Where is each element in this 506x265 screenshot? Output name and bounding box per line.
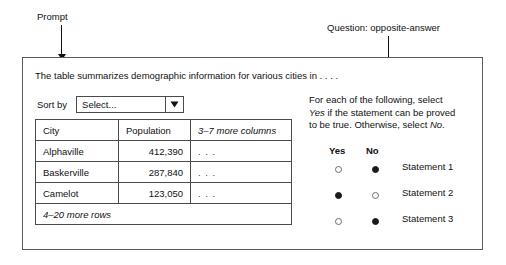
cell-population: 412,390 [119,141,191,162]
instructions-line-3: to be true. Otherwise, select [309,119,430,130]
radio-no-statement-1[interactable] [372,166,379,173]
table-header-row: City Population 3–7 more columns [36,120,292,141]
response-column-headers: Yes No [309,145,475,159]
question-frame: The table summarizes demographic informa… [22,57,483,250]
statement-row: Statement 1 [309,159,475,185]
radio-no-statement-2[interactable] [372,192,379,199]
column-header-no: No [366,145,379,156]
instructions-line-2: if the statement can be proved [325,107,455,118]
arrow-shaft [61,25,62,55]
statement-label: Statement 3 [402,213,453,224]
sort-by-selected-value: Select... [77,97,165,112]
cell-city: Camelot [36,183,119,204]
table-more-rows-note: 4–20 more rows [36,204,292,225]
cell-city: Alphaville [36,141,119,162]
instructions-yes-emphasis: Yes [309,107,325,118]
cell-city: Baskerville [36,162,119,183]
statement-row: Statement 2 [309,185,475,211]
radio-no-statement-3[interactable] [372,218,379,225]
table-pane: Sort by Select... City Population 3–7 mo… [35,96,307,225]
column-header-more-columns: 3–7 more columns [191,120,292,141]
sort-by-label: Sort by [37,99,67,110]
sort-by-select[interactable]: Select... [76,96,184,113]
response-instructions: For each of the following, select Yes if… [309,94,475,132]
annotation-prompt-label: Prompt [37,11,68,23]
instructions-no-emphasis: No [430,119,442,130]
sort-by-row: Sort by Select... [35,96,307,113]
instructions-line-3-end: . [442,119,445,130]
chevron-down-icon[interactable] [165,97,183,112]
statement-label: Statement 1 [402,161,453,172]
statement-label: Statement 2 [402,187,453,198]
column-header-city[interactable]: City [36,120,119,141]
demographics-table: City Population 3–7 more columns Alphavi… [35,119,292,225]
table-row: Alphaville 412,390 . . . [36,141,292,162]
radio-yes-statement-1[interactable] [335,166,342,173]
table-footer-row: 4–20 more rows [36,204,292,225]
instructions-line-1: For each of the following, select [309,94,443,105]
table-row: Camelot 123,050 . . . [36,183,292,204]
cell-more: . . . [191,183,292,204]
table-row: Baskerville 287,840 . . . [36,162,292,183]
cell-more: . . . [191,162,292,183]
cell-population: 123,050 [119,183,191,204]
cell-more: . . . [191,141,292,162]
cell-population: 287,840 [119,162,191,183]
column-header-yes: Yes [329,145,345,156]
radio-yes-statement-2[interactable] [335,192,342,199]
statement-row: Statement 3 [309,211,475,237]
annotation-question-label: Question: opposite-answer [327,22,440,34]
response-pane: For each of the following, select Yes if… [309,94,475,237]
radio-yes-statement-3[interactable] [335,218,342,225]
column-header-population[interactable]: Population [119,120,191,141]
question-stem: The table summarizes demographic informa… [35,69,338,82]
